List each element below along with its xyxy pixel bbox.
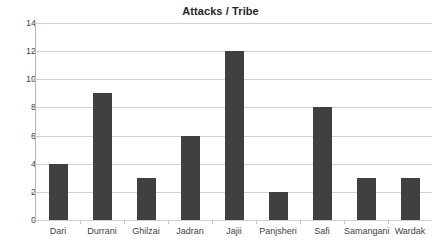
bar xyxy=(137,178,156,220)
x-axis-tick-mark xyxy=(388,220,389,224)
x-axis-tick-label: Wardak xyxy=(388,226,432,237)
x-axis-tick-mark xyxy=(212,220,213,224)
bar xyxy=(401,178,420,220)
y-axis: 02468101214 xyxy=(0,23,36,220)
bar xyxy=(93,93,112,220)
bar xyxy=(225,51,244,220)
bar xyxy=(181,136,200,220)
x-axis-tick-label: Ghilzai xyxy=(124,226,168,237)
bar xyxy=(313,107,332,220)
x-axis-tick-mark xyxy=(300,220,301,224)
x-axis-tick-label: Dari xyxy=(36,226,80,237)
x-axis-tick-label: Safi xyxy=(300,226,344,237)
x-axis-tick-mark xyxy=(168,220,169,224)
plot-area xyxy=(36,23,432,220)
x-axis-tick-mark xyxy=(344,220,345,224)
bars xyxy=(36,23,432,220)
x-axis-tick-label: Panjsheri xyxy=(256,226,300,237)
bar xyxy=(269,192,288,220)
x-axis-tick-label: Jajii xyxy=(212,226,256,237)
bar-chart: Attacks / Tribe 02468101214 DariDurraniG… xyxy=(0,0,441,243)
x-axis-tick-label: Jadran xyxy=(168,226,212,237)
x-axis-tick-mark xyxy=(256,220,257,224)
bar xyxy=(49,164,68,220)
x-axis-tick-mark xyxy=(80,220,81,224)
chart-title: Attacks / Tribe xyxy=(0,4,441,18)
bar xyxy=(357,178,376,220)
gridline xyxy=(36,220,432,221)
x-axis-tick-label: Durrani xyxy=(80,226,124,237)
x-axis-tick-label: Samangani xyxy=(344,226,388,237)
x-axis-tick-mark xyxy=(124,220,125,224)
